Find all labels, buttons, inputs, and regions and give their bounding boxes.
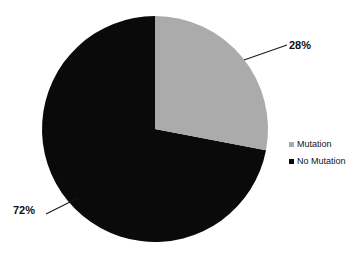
legend-swatch-mutation-icon: [289, 142, 294, 147]
pie-slice-mutation[interactable]: [155, 16, 268, 150]
chart-legend: Mutation No Mutation: [289, 137, 351, 171]
legend-label-no-mutation: No Mutation: [297, 156, 346, 166]
pie-chart-figure: 28% 72% Mutation No Mutation: [0, 0, 352, 257]
legend-item-no-mutation[interactable]: No Mutation: [289, 154, 351, 168]
data-label-mutation-percent: 28%: [289, 39, 311, 51]
legend-item-mutation[interactable]: Mutation: [289, 137, 351, 151]
leader-line-mutation: [244, 45, 287, 60]
data-label-no-mutation-percent: 72%: [13, 204, 35, 216]
leader-line-no-mutation: [46, 199, 76, 214]
legend-label-mutation: Mutation: [297, 139, 332, 149]
legend-swatch-no-mutation-icon: [289, 159, 294, 164]
